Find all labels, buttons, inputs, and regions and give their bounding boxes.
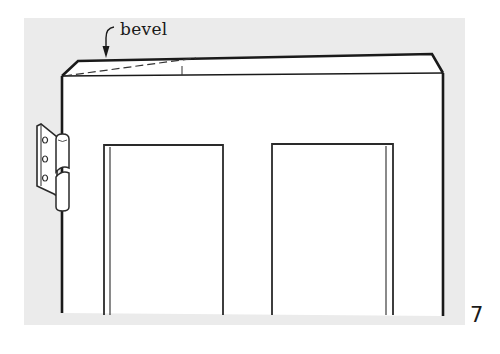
door-bevel-illustration <box>0 0 500 354</box>
door-drawing <box>0 0 500 354</box>
bevel-label: bevel <box>120 19 168 39</box>
figure-number: 7 <box>470 303 483 327</box>
